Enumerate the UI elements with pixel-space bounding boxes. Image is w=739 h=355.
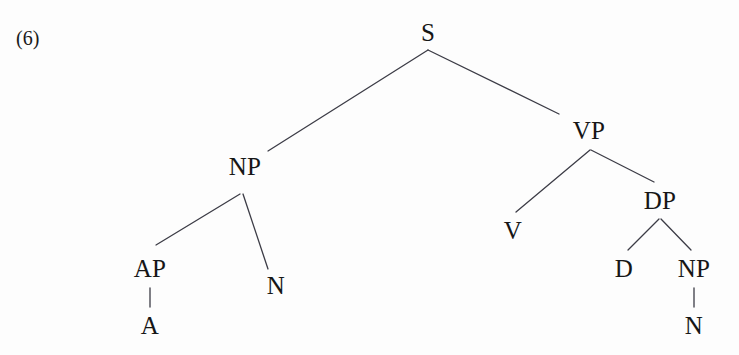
- tree-node-dp: DP: [644, 188, 676, 213]
- tree-node-a: A: [141, 313, 159, 338]
- tree-edge-vp-to-dp: [591, 150, 654, 182]
- tree-node-d: D: [615, 256, 633, 281]
- tree-node-np2: NP: [678, 256, 710, 281]
- tree-edge-vp-to-v: [516, 150, 590, 212]
- figure-canvas: (6) SNPVPAPNAVDPDNPN: [0, 0, 739, 355]
- tree-edge-s-to-vp: [428, 50, 559, 114]
- tree-node-n2: N: [685, 313, 703, 338]
- tree-edge-s-to-np1: [268, 50, 428, 151]
- tree-edge-np1-to-ap: [156, 194, 240, 245]
- tree-node-ap: AP: [134, 256, 166, 281]
- tree-edges-layer: [0, 0, 739, 355]
- tree-edge-dp-to-d: [628, 219, 659, 250]
- tree-node-n1: N: [267, 273, 285, 298]
- tree-node-s: S: [421, 20, 435, 45]
- example-number-label: (6): [16, 28, 39, 48]
- tree-node-v: V: [504, 218, 522, 243]
- tree-edge-dp-to-np2: [661, 219, 691, 250]
- tree-edge-np1-to-n1: [243, 194, 268, 269]
- tree-node-vp: VP: [573, 118, 605, 143]
- tree-node-np1: NP: [229, 154, 261, 179]
